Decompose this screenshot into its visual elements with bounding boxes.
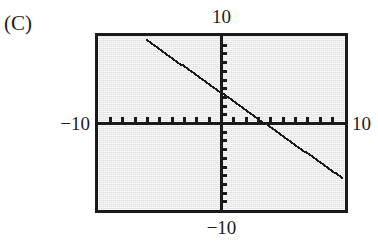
y-axis-max-label: 10 <box>95 6 348 28</box>
calculator-screen <box>95 33 348 213</box>
graph-plot <box>98 36 345 210</box>
figure-panel: (C) 10 −10 −10 10 <box>0 0 378 245</box>
part-label: (C) <box>4 10 32 36</box>
x-axis-min-label: −10 <box>44 113 90 135</box>
x-axis-max-label: 10 <box>352 113 378 135</box>
y-axis-min-label: −10 <box>95 217 348 239</box>
axes-group <box>98 36 345 210</box>
plotted-curve <box>146 39 343 179</box>
